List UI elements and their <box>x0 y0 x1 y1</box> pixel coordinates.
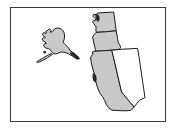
region-washington[interactable] <box>93 12 117 32</box>
map-canvas <box>0 0 176 130</box>
alaska-island-speck <box>44 52 46 53</box>
oregon-shape[interactable] <box>93 31 121 51</box>
map-figure: Selected Not selected <box>0 0 176 130</box>
california-bay-notch <box>93 74 96 82</box>
alaska-aleutian-tail <box>37 54 52 63</box>
region-alaska[interactable] <box>37 28 80 63</box>
region-oregon[interactable] <box>93 31 121 51</box>
